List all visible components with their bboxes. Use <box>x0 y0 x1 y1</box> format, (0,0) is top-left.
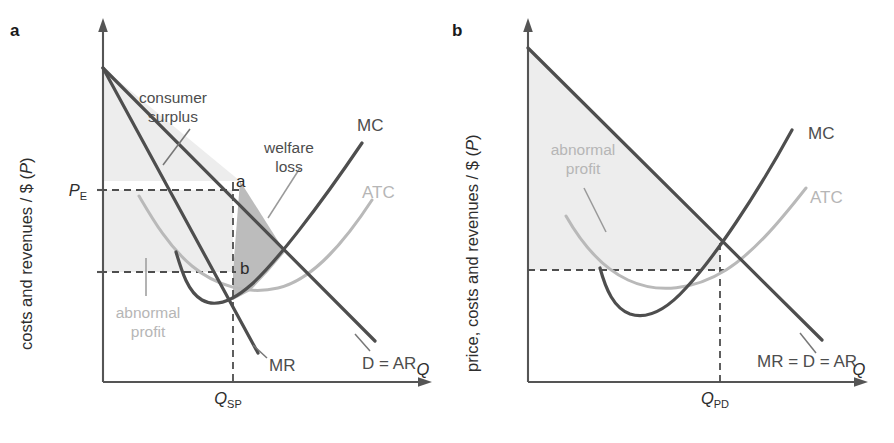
abnormal-profit-region-b <box>528 48 720 270</box>
price-axis-mark-a: PE <box>69 181 87 202</box>
panel-b-y-axis-title: price, costs and revenues / $ (P) <box>463 134 481 372</box>
mr-leader-a <box>253 345 267 358</box>
quantity-axis-mark-b: QPD <box>701 389 729 410</box>
point-b-label: b <box>240 259 249 278</box>
consumer-surplus-label-line1: consumer <box>139 89 207 106</box>
abnormal-profit-region-a <box>103 190 233 272</box>
panel-b-letter: b <box>452 21 462 40</box>
demand-leader-b <box>800 333 816 353</box>
panel-a-y-axis-title: costs and revenues / $ (P) <box>17 157 35 350</box>
welfare-loss-label-line1: welfare <box>263 139 314 156</box>
mr-label-a: MR <box>269 356 295 375</box>
quantity-axis-mark-a: QSP <box>214 389 242 410</box>
mc-label-a: MC <box>357 116 383 135</box>
abnormal-profit-label-a-line2: profit <box>131 323 166 340</box>
welfare-loss-leader <box>268 168 300 218</box>
abnormal-profit-label-b-line1: abnormal <box>551 141 616 158</box>
consumer-surplus-label-line2: surplus <box>148 108 198 125</box>
demand-label-a: D = AR <box>362 354 416 373</box>
atc-label-b: ATC <box>810 188 843 207</box>
welfare-loss-label-line2: loss <box>275 158 303 175</box>
welfare-loss-region <box>233 181 285 300</box>
panel-a-letter: a <box>10 21 20 40</box>
mc-label-b: MC <box>808 124 834 143</box>
point-a-label: a <box>236 172 246 191</box>
demand-leader-a <box>355 334 370 351</box>
panel-b: b price, costs and revenues / $ (P) Q QP… <box>452 18 868 410</box>
abnormal-profit-label-a-line1: abnormal <box>116 304 181 321</box>
panel-a-x-axis-title: Q <box>417 360 430 378</box>
figure-canvas: a <box>0 0 894 443</box>
panel-a-y-axis-arrow <box>98 18 108 32</box>
atc-label-a: ATC <box>362 183 395 202</box>
panel-a-x-axis-arrow <box>418 377 432 387</box>
economics-figure: a <box>0 0 894 443</box>
abnormal-profit-label-b-line2: profit <box>566 160 601 177</box>
panel-b-x-axis-arrow <box>854 377 868 387</box>
panel-a: a <box>10 18 432 410</box>
panel-b-y-axis-arrow <box>523 18 533 32</box>
demand-label-b: MR = D = AR <box>757 352 857 371</box>
